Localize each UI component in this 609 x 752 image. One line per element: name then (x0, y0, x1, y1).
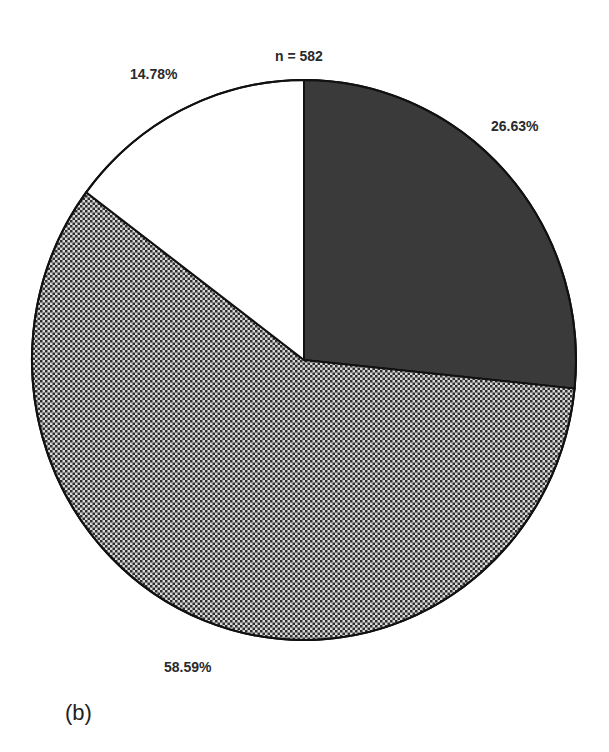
pie-slices (32, 80, 576, 640)
panel-label: (b) (65, 700, 92, 726)
slice-label-checker: 58.59% (164, 659, 211, 675)
sample-size-label: n = 582 (275, 48, 323, 64)
pie-chart (0, 0, 609, 752)
slice-label-white: 14.78% (130, 66, 177, 82)
slice-label-dark: 26.63% (491, 118, 538, 134)
